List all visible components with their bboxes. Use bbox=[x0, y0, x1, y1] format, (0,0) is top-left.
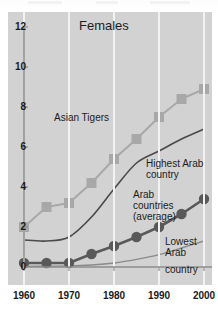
y-axis-label-0: 0 bbox=[20, 262, 26, 272]
x-axis-label-1990: 1990 bbox=[142, 290, 176, 301]
datapoint-asian-tigers-1975 bbox=[87, 178, 97, 188]
y-axis-label-4: 4 bbox=[20, 182, 26, 192]
datapoint-asian-tigers-1985 bbox=[132, 134, 142, 144]
series-label-lowest-arab-line3: country bbox=[165, 264, 198, 276]
datapoint-arab-average-1995 bbox=[176, 209, 186, 219]
x-axis-label-1970: 1970 bbox=[52, 290, 86, 301]
datapoint-arab-average-1975 bbox=[86, 249, 96, 259]
x-axis-label-1960: 1960 bbox=[7, 290, 41, 301]
series-label-lowest-arab-line1: Lowest bbox=[165, 236, 197, 248]
y-axis-label-12: 12 bbox=[15, 22, 26, 32]
series-label-highest-arab-line1: Highest Arab bbox=[146, 158, 203, 170]
gridline-1980 bbox=[113, 12, 115, 285]
datapoint-arab-average-1985 bbox=[131, 232, 141, 242]
x-axis-tick-labels: 19601970198019902000 bbox=[8, 290, 212, 304]
datapoint-arab-average-1965 bbox=[41, 258, 51, 268]
scan-artifact-strip bbox=[0, 0, 218, 7]
datapoint-asian-tigers-1995 bbox=[177, 94, 187, 104]
y-axis-label-8: 8 bbox=[20, 102, 26, 112]
y-axis-label-6: 6 bbox=[20, 142, 26, 152]
y-axis-label-2: 2 bbox=[20, 222, 26, 232]
series-label-asian-tigers: Asian Tigers bbox=[54, 112, 109, 124]
datapoint-asian-tigers-1965 bbox=[42, 202, 52, 212]
series-label-arab-average-line3: (average) bbox=[133, 211, 176, 223]
gridline-1990 bbox=[158, 12, 160, 285]
series-label-lowest-arab-line2: Arab bbox=[165, 247, 186, 259]
gridline-2000 bbox=[203, 12, 205, 285]
x-axis-label-2000: 2000 bbox=[187, 290, 218, 301]
chart-title: Females bbox=[79, 18, 129, 33]
x-axis-label-1980: 1980 bbox=[97, 290, 131, 301]
gridline-1970 bbox=[68, 12, 70, 285]
series-label-arab-average-line2: countries bbox=[133, 200, 174, 212]
series-label-highest-arab-line2: country bbox=[146, 169, 179, 181]
chart-figure: 024681012 19601970198019902000 Females A… bbox=[0, 0, 218, 315]
y-axis-tick-labels: 024681012 bbox=[0, 12, 26, 285]
y-axis-label-10: 10 bbox=[15, 62, 26, 72]
series-label-arab-average-line1: Arab bbox=[133, 189, 154, 201]
